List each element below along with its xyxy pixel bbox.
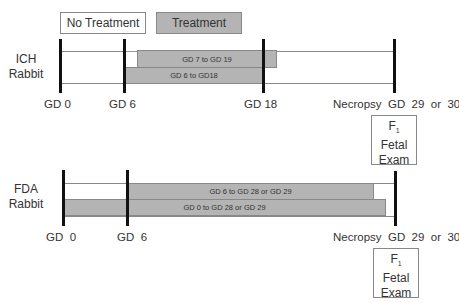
ich-species-label: ICH Rabbit (4, 52, 48, 82)
ich-fetal-line2: Fetal (372, 138, 416, 153)
fda-species-label: FDA Rabbit (4, 182, 48, 212)
ich-gd18-marker (262, 39, 265, 93)
ich-bar-gd6-gd18: GD 6 to GD18 (124, 67, 264, 84)
legend-no-treatment-label: No Treatment (67, 16, 140, 30)
ich-necropsy-marker (393, 39, 396, 93)
ich-gd18-label: GD 18 (244, 98, 277, 110)
legend-treatment-label: Treatment (172, 16, 226, 30)
ich-gd6-marker (123, 39, 126, 93)
fda-species-line2: Rabbit (4, 197, 48, 212)
ich-species-line1: ICH (4, 52, 48, 67)
ich-gd0-label: GD 0 (44, 98, 71, 110)
ich-bar-gd7-gd19: GD 7 to GD 19 (137, 50, 277, 68)
ich-fetal-f1: F1 (372, 119, 416, 138)
ich-necropsy-label: Necropsy GD 29 or 30 (333, 98, 459, 110)
fda-bar-gd6-gd29: GD 6 to GD 28 or GD 29 (127, 183, 374, 200)
ich-fetal-line3: Exam (372, 153, 416, 168)
fda-gd0-marker (62, 170, 65, 226)
fda-gd6-marker (126, 170, 129, 226)
ich-fetal-sub: 1 (396, 127, 400, 134)
fda-bar-gd0-gd29: GD 0 to GD 28 or GD 29 (63, 199, 386, 216)
fda-fetal-exam-box: F1 Fetal Exam (373, 248, 419, 298)
ich-fetal-exam-box: F1 Fetal Exam (371, 115, 417, 165)
fda-bar-gd0-gd29-label: GD 0 to GD 28 or GD 29 (183, 203, 265, 212)
ich-fetal-f: F (388, 119, 395, 133)
ich-gd6-label: GD 6 (109, 98, 136, 110)
fda-bar-gd6-gd29-label: GD 6 to GD 28 or GD 29 (209, 187, 291, 196)
fda-fetal-line3: Exam (374, 286, 418, 301)
ich-no-treatment-gap (124, 51, 138, 68)
ich-gd0-marker (59, 39, 62, 93)
fda-necropsy-label: Necropsy GD 29 or 30 (333, 231, 459, 243)
fda-gd0-label: GD 0 (46, 231, 76, 243)
legend-treatment: Treatment (156, 12, 242, 34)
fda-species-line1: FDA (4, 182, 48, 197)
fda-necropsy-marker (394, 171, 397, 226)
fda-bottom-line (63, 216, 395, 217)
fda-fetal-sub: 1 (398, 260, 402, 267)
fda-gd6-label: GD 6 (117, 231, 147, 243)
ich-bar-gd7-gd19-label: GD 7 to GD 19 (182, 55, 232, 64)
fda-fetal-f1: F1 (374, 252, 418, 271)
legend-no-treatment: No Treatment (60, 12, 146, 34)
ich-species-line2: Rabbit (4, 67, 48, 82)
ich-bar-gd6-gd18-label: GD 6 to GD18 (170, 71, 218, 80)
fda-fetal-line2: Fetal (374, 271, 418, 286)
fda-fetal-f: F (390, 252, 397, 266)
